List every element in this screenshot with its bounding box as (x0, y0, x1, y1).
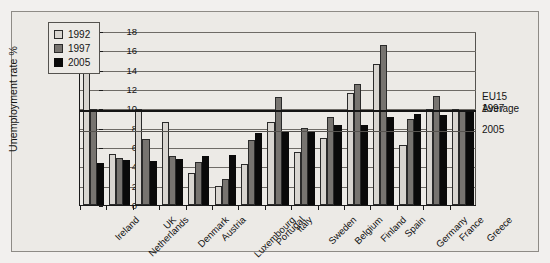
bar-belgium-1992 (320, 138, 327, 205)
bar-spain-1992 (373, 64, 380, 205)
bar-ireland-2005 (97, 163, 104, 205)
x-label-greece: Greece (484, 214, 514, 244)
legend-swatch-icon-1992 (54, 30, 63, 39)
y-axis-label-text: Unemployment rate % (7, 46, 19, 152)
y-tick-label: 16 (103, 46, 137, 56)
bar-luxembourg-2005 (229, 155, 236, 205)
plot-area (79, 32, 476, 206)
bar-group (450, 32, 476, 205)
legend-label-1997: 1997 (68, 43, 90, 54)
y-tick-label: 10 (103, 104, 137, 114)
x-label-sweden: Sweden (326, 214, 358, 246)
y-tick-mark (99, 90, 103, 91)
y-tick-label: 6 (103, 143, 137, 153)
legend-item-1997: 1997 (54, 41, 90, 55)
bar-austria-1992 (188, 173, 195, 205)
eu15-average-line-1997 (80, 110, 476, 112)
bar-netherlands-2005 (123, 160, 130, 205)
bar-portugal-1997 (248, 140, 255, 205)
bar-germany-2005 (414, 114, 421, 205)
y-tick-label: 12 (103, 85, 137, 95)
bar-sweden-1992 (294, 152, 301, 205)
bar-group (212, 32, 238, 205)
bar-group (106, 32, 132, 205)
eu15-ref-label-2005: 2005 (482, 124, 504, 137)
legend-label-1992: 1992 (68, 29, 90, 40)
legend-item-1992: 1992 (54, 27, 90, 41)
bar-france-2005 (440, 115, 447, 205)
bar-denmark-1997 (169, 156, 176, 205)
bar-finland-2005 (361, 125, 368, 205)
y-tick-mark (99, 148, 103, 149)
bar-netherlands-1997 (116, 158, 123, 205)
bar-group (265, 32, 291, 205)
bar-austria-1997 (195, 162, 202, 205)
bar-uk-1992 (135, 109, 142, 205)
x-label-spain: Spain (402, 214, 427, 239)
bar-group (186, 32, 212, 205)
bar-france-1992 (426, 109, 433, 205)
bar-group (318, 32, 344, 205)
legend-item-2005: 2005 (54, 55, 90, 69)
y-tick-label: 8 (103, 124, 137, 134)
chart-page: 024681012141618 Unemployment rate % 1992… (0, 0, 550, 263)
legend-swatch-icon-2005 (54, 58, 63, 67)
bar-group (291, 32, 317, 205)
bar-belgium-2005 (334, 125, 341, 205)
eu15-ref-label-1997: 1997 (482, 103, 504, 116)
bar-greece-1997 (459, 110, 466, 205)
bar-greece-2005 (466, 110, 473, 205)
bar-italy-1997 (275, 97, 282, 205)
y-tick-mark (99, 206, 103, 207)
x-axis-labels: IrelandNetherlandsUKDenmarkAustriaLuxemb… (79, 208, 476, 263)
y-axis-label: Unemployment rate % (6, 12, 20, 186)
bar-group (238, 32, 264, 205)
bar-denmark-1992 (162, 122, 169, 205)
bar-uk-2005 (150, 161, 157, 205)
x-label-ireland: Ireland (113, 214, 142, 243)
bar-group (159, 32, 185, 205)
bar-uk-1997 (142, 139, 149, 205)
bar-luxembourg-1997 (222, 179, 229, 205)
y-tick-label: 14 (103, 66, 137, 76)
bar-italy-2005 (282, 132, 289, 205)
y-tick-mark (99, 129, 103, 130)
bar-denmark-2005 (176, 159, 183, 205)
bar-sweden-2005 (308, 131, 315, 205)
bar-group (133, 32, 159, 205)
bar-sweden-1997 (301, 128, 308, 205)
chart-legend: 1992 1997 2005 (48, 22, 100, 74)
bar-finland-1997 (354, 84, 361, 205)
bar-germany-1997 (407, 119, 414, 205)
bar-ireland-1997 (90, 109, 97, 205)
eu15-average-line-2005 (80, 131, 476, 132)
bar-groups (80, 32, 476, 205)
bar-italy-1992 (267, 122, 274, 205)
bar-netherlands-1992 (109, 154, 116, 205)
bar-spain-1997 (380, 45, 387, 205)
legend-label-2005: 2005 (68, 57, 90, 68)
bar-germany-1992 (399, 145, 406, 205)
bar-greece-1992 (452, 109, 459, 205)
bar-luxembourg-1992 (215, 186, 222, 205)
bar-portugal-1992 (241, 164, 248, 205)
bar-group (397, 32, 423, 205)
bar-group (344, 32, 370, 205)
eu15-average-title-line1: EU15 (482, 91, 507, 104)
chart-frame: 024681012141618 Unemployment rate % 1992… (11, 11, 539, 252)
y-tick-label: 18 (103, 27, 137, 37)
legend-swatch-icon-1997 (54, 44, 63, 53)
bar-austria-2005 (202, 156, 209, 205)
bar-portugal-2005 (255, 133, 262, 206)
bar-group (370, 32, 396, 205)
x-label-belgium: Belgium (352, 214, 384, 246)
bar-group (423, 32, 449, 205)
